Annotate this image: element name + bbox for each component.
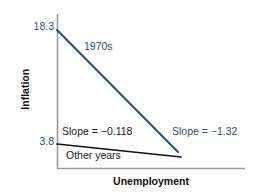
chart-figure: 18.3 3.8 1970s Slope = −0.118 Slope = −1…	[0, 0, 261, 194]
y-axis-title: Inflation	[20, 44, 31, 134]
series-label-other-years: Other years	[66, 150, 121, 161]
slope-label-other-years: Slope = −0.118	[62, 126, 132, 137]
y-tick-label-bottom: 3.8	[18, 136, 54, 147]
slope-label-1970s: Slope = −1.32	[172, 126, 237, 137]
x-axis-title: Unemployment	[57, 176, 245, 187]
y-tick-label-top: 18.3	[18, 21, 54, 32]
series-label-1970s: 1970s	[84, 41, 113, 52]
